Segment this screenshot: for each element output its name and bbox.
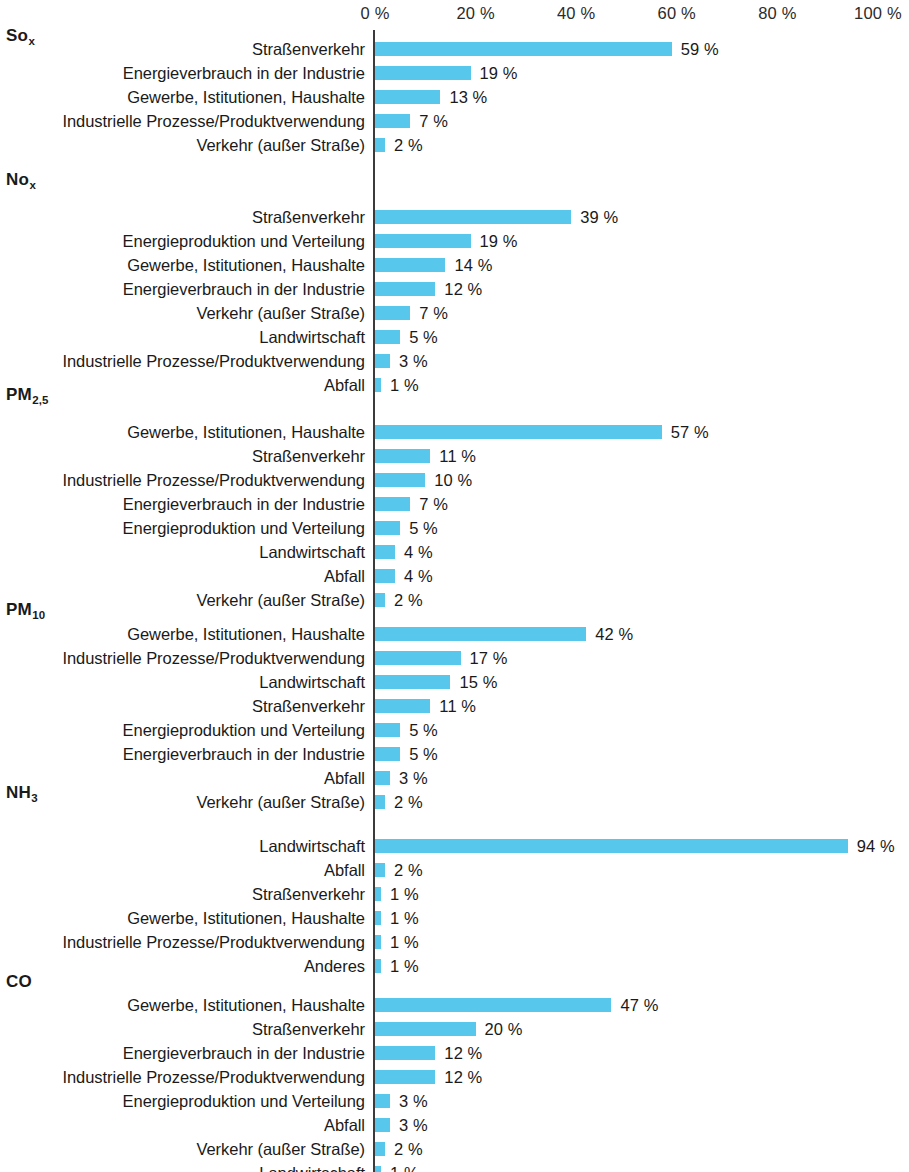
bar-row[interactable]: Verkehr (außer Straße)2 % [0, 793, 909, 817]
bar[interactable] [375, 1142, 385, 1156]
bar[interactable] [375, 114, 410, 128]
bar-value-label: 5 % [409, 721, 438, 740]
bar-value-label: 19 % [480, 232, 518, 251]
bar[interactable] [375, 1166, 381, 1172]
bar-value-label: 1 % [390, 933, 419, 952]
bar-row[interactable]: Energieproduktion und Verteilung5 % [0, 721, 909, 745]
bar[interactable] [375, 90, 440, 104]
bar-row[interactable]: Gewerbe, Istitutionen, Haushalte13 % [0, 88, 909, 112]
bar[interactable] [375, 234, 471, 248]
bar-row[interactable]: Industrielle Prozesse/Produktverwendung3… [0, 352, 909, 376]
bar[interactable] [375, 795, 385, 809]
bar[interactable] [375, 863, 385, 877]
bar[interactable] [375, 449, 430, 463]
bar-row[interactable]: Verkehr (außer Straße)2 % [0, 1140, 909, 1164]
bar[interactable] [375, 723, 400, 737]
bar[interactable] [375, 497, 410, 511]
bar[interactable] [375, 839, 848, 853]
bar[interactable] [375, 258, 445, 272]
bar[interactable] [375, 210, 571, 224]
bar-row[interactable]: Verkehr (außer Straße)2 % [0, 136, 909, 160]
bar[interactable] [375, 66, 471, 80]
bar[interactable] [375, 627, 586, 641]
bar-row[interactable]: Straßenverkehr11 % [0, 697, 909, 721]
bar[interactable] [375, 651, 461, 665]
bar-category-label: Gewerbe, Istitutionen, Haushalte [0, 88, 365, 107]
bar[interactable] [375, 1046, 435, 1060]
bar[interactable] [375, 330, 400, 344]
bar-row[interactable]: Gewerbe, Istitutionen, Haushalte42 % [0, 625, 909, 649]
bar-row[interactable]: Abfall3 % [0, 1116, 909, 1140]
bar[interactable] [375, 911, 381, 925]
bar[interactable] [375, 699, 430, 713]
bar-row[interactable]: Energieverbrauch in der Industrie19 % [0, 64, 909, 88]
bar-value-label: 3 % [399, 1092, 428, 1111]
bar-row[interactable]: Straßenverkehr20 % [0, 1020, 909, 1044]
bar-category-label: Industrielle Prozesse/Produktverwendung [0, 352, 365, 371]
bar-row[interactable]: Industrielle Prozesse/Produktverwendung1… [0, 471, 909, 495]
bar-row[interactable]: Industrielle Prozesse/Produktverwendung1… [0, 1068, 909, 1092]
bar-row[interactable]: Industrielle Prozesse/Produktverwendung1… [0, 649, 909, 673]
bar[interactable] [375, 473, 425, 487]
bar-category-label: Energieproduktion und Verteilung [0, 232, 365, 251]
panel-title-pm10: PM10 [6, 600, 45, 620]
bar-row[interactable]: Gewerbe, Istitutionen, Haushalte1 % [0, 909, 909, 933]
bar-row[interactable]: Landwirtschaft5 % [0, 328, 909, 352]
bar-row[interactable]: Energieproduktion und Verteilung3 % [0, 1092, 909, 1116]
bar-row[interactable]: Straßenverkehr59 % [0, 40, 909, 64]
bar-category-label: Verkehr (außer Straße) [0, 304, 365, 323]
bar-category-label: Verkehr (außer Straße) [0, 1140, 365, 1159]
bar-row[interactable]: Energieverbrauch in der Industrie12 % [0, 1044, 909, 1068]
bar-row[interactable]: Abfall3 % [0, 769, 909, 793]
bar[interactable] [375, 675, 450, 689]
bar-row[interactable]: Landwirtschaft94 % [0, 837, 909, 861]
bar-row[interactable]: Energieproduktion und Verteilung5 % [0, 519, 909, 543]
bar[interactable] [375, 42, 672, 56]
bar[interactable] [375, 959, 381, 973]
bar[interactable] [375, 306, 410, 320]
bar-row[interactable]: Industrielle Prozesse/Produktverwendung7… [0, 112, 909, 136]
bar-row[interactable]: Energieproduktion und Verteilung19 % [0, 232, 909, 256]
bar[interactable] [375, 282, 435, 296]
bar-row[interactable]: Gewerbe, Istitutionen, Haushalte57 % [0, 423, 909, 447]
bar-value-label: 2 % [394, 861, 423, 880]
bar[interactable] [375, 935, 381, 949]
bar-row[interactable]: Industrielle Prozesse/Produktverwendung1… [0, 933, 909, 957]
bar[interactable] [375, 747, 400, 761]
bar-row[interactable]: Anderes1 % [0, 957, 909, 981]
bar-row[interactable]: Gewerbe, Istitutionen, Haushalte14 % [0, 256, 909, 280]
bar-row[interactable]: Abfall1 % [0, 376, 909, 400]
bar[interactable] [375, 425, 662, 439]
bar-row[interactable]: Straßenverkehr11 % [0, 447, 909, 471]
bar-row[interactable]: Landwirtschaft1 % [0, 1164, 909, 1172]
bar[interactable] [375, 378, 381, 392]
bar-row[interactable]: Straßenverkehr1 % [0, 885, 909, 909]
bar-row[interactable]: Abfall4 % [0, 567, 909, 591]
bar-category-label: Straßenverkehr [0, 208, 365, 227]
bar-row[interactable]: Landwirtschaft4 % [0, 543, 909, 567]
bar[interactable] [375, 1118, 390, 1132]
bar-row[interactable]: Energieverbrauch in der Industrie12 % [0, 280, 909, 304]
bar[interactable] [375, 138, 385, 152]
bar-row[interactable]: Abfall2 % [0, 861, 909, 885]
bar[interactable] [375, 1070, 435, 1084]
bar-row[interactable]: Straßenverkehr39 % [0, 208, 909, 232]
bar[interactable] [375, 593, 385, 607]
bar-row[interactable]: Verkehr (außer Straße)2 % [0, 591, 909, 615]
bar[interactable] [375, 521, 400, 535]
bar[interactable] [375, 1022, 476, 1036]
bar-category-label: Industrielle Prozesse/Produktverwendung [0, 933, 365, 952]
bar[interactable] [375, 569, 395, 583]
bar[interactable] [375, 1094, 390, 1108]
bar-row[interactable]: Gewerbe, Istitutionen, Haushalte47 % [0, 996, 909, 1020]
bar-row[interactable]: Landwirtschaft15 % [0, 673, 909, 697]
bar-value-label: 4 % [404, 567, 433, 586]
bar[interactable] [375, 545, 395, 559]
bar[interactable] [375, 354, 390, 368]
bar[interactable] [375, 998, 611, 1012]
bar-row[interactable]: Verkehr (außer Straße)7 % [0, 304, 909, 328]
bar[interactable] [375, 887, 381, 901]
bar-row[interactable]: Energieverbrauch in der Industrie7 % [0, 495, 909, 519]
bar-row[interactable]: Energieverbrauch in der Industrie5 % [0, 745, 909, 769]
bar[interactable] [375, 771, 390, 785]
